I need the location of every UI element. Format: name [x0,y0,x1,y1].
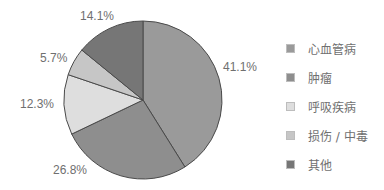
pct-label-other: 14.1% [80,9,114,23]
legend-item-cardiovascular: 心血管病 [284,34,368,63]
legend-label: 呼吸疾病 [308,98,356,115]
legend-label: 心血管病 [308,40,356,57]
legend-label: 肿瘤 [308,69,332,86]
legend-item-other: 其他 [284,150,368,179]
pie-slices [64,21,222,179]
legend-swatch [286,131,295,140]
pct-label-cardiovascular: 41.1% [223,60,257,74]
pct-label-respiratory: 12.3% [20,97,54,111]
legend: 心血管病 肿瘤 呼吸疾病 损伤 / 中毒 其他 [284,34,368,179]
pct-label-tumor: 26.8% [53,163,87,177]
legend-item-tumor: 肿瘤 [284,63,368,92]
legend-label: 损伤 / 中毒 [308,127,368,144]
pct-label-injury-poisoning: 5.7% [40,51,67,65]
legend-swatch [286,102,295,111]
legend-label: 其他 [308,156,332,173]
legend-swatch [286,44,295,53]
legend-item-injury-poisoning: 损伤 / 中毒 [284,121,368,150]
legend-swatch [286,160,295,169]
legend-item-respiratory: 呼吸疾病 [284,92,368,121]
legend-swatch [286,73,295,82]
